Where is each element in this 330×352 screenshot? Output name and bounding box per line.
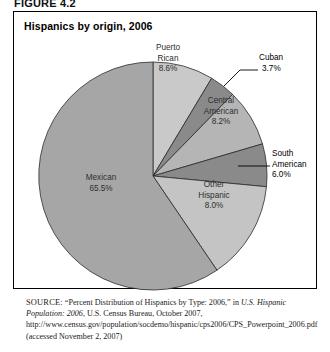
leader-line-cuban [224,70,258,86]
slice-label-south-american-line1: South [272,149,326,160]
figure-frame: Hispanics by origin, 2006 Puerto Rica [13,11,317,289]
slice-label-mexican: Mexican 65.5% [70,173,132,194]
pie-chart: Puerto Rican 8.6% Cuban 3.7% Central Ame… [14,12,316,288]
slice-label-central-american-line1: Central [190,96,252,107]
slice-label-puerto-rican-line1: Puerto [142,43,194,54]
slice-value-other-hispanic: 8.0% [186,201,242,212]
slice-label-south-american: South American 6.0% [272,149,326,181]
slice-value-cuban: 3.7% [259,64,315,75]
slice-label-other-hispanic-line2: Hispanic [186,191,242,202]
source-note: SOURCE: “Percent Distribution of Hispani… [26,297,314,342]
slice-label-other-hispanic-line1: Other [186,180,242,191]
slice-label-puerto-rican-line2: Rican [142,54,194,65]
slice-label-central-american: Central American 8.2% [190,96,252,128]
figure-label: FIGURE 4.2 [14,0,76,9]
slice-value-mexican: 65.5% [70,184,132,195]
slice-label-puerto-rican: Puerto Rican 8.6% [142,43,194,75]
slice-label-cuban-line1: Cuban [259,53,315,64]
slice-label-mexican-line1: Mexican [70,173,132,184]
slice-label-south-american-line2: American [272,160,326,171]
slice-label-other-hispanic: Other Hispanic 8.0% [186,180,242,212]
slice-label-central-american-line2: American [190,107,252,118]
slice-value-central-american: 8.2% [190,117,252,128]
slice-label-cuban: Cuban 3.7% [259,53,315,74]
source-note-part1: “Percent Distribution of Hispanics by Ty… [63,298,241,307]
slice-value-south-american: 6.0% [272,170,326,181]
source-note-label: SOURCE: [26,298,63,307]
slice-value-puerto-rican: 8.6% [142,64,194,75]
